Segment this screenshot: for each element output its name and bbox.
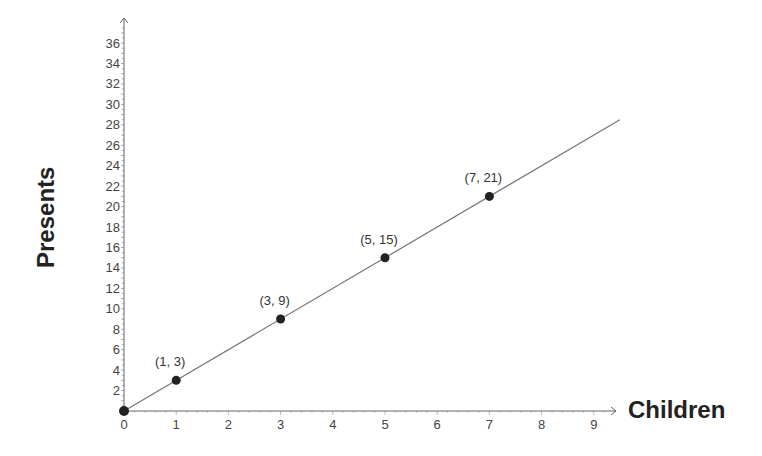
data-point-label: (3, 9) xyxy=(259,293,289,308)
y-tick-label: 10 xyxy=(106,301,120,316)
x-tick-label: 5 xyxy=(381,417,388,432)
trend-line xyxy=(124,120,620,411)
x-tick-label: 4 xyxy=(329,417,336,432)
y-tick-label: 24 xyxy=(106,158,120,173)
data-point xyxy=(172,376,181,385)
y-tick-label: 28 xyxy=(106,117,120,132)
data-point xyxy=(276,315,285,324)
y-tick-label: 32 xyxy=(106,76,120,91)
x-axis-ticks: 0123456789 xyxy=(120,411,614,432)
data-point-label: (5, 15) xyxy=(360,232,398,247)
data-point-label: (1, 3) xyxy=(155,354,185,369)
y-tick-label: 6 xyxy=(113,342,120,357)
y-tick-label: 8 xyxy=(113,322,120,337)
y-tick-label: 14 xyxy=(106,260,120,275)
y-axis-title: Presents xyxy=(32,167,59,268)
x-tick-label: 0 xyxy=(120,417,127,432)
x-tick-label: 9 xyxy=(590,417,597,432)
y-tick-label: 20 xyxy=(106,199,120,214)
data-points: (1, 3)(3, 9)(5, 15)(7, 21) xyxy=(119,170,502,416)
x-tick-label: 2 xyxy=(225,417,232,432)
y-tick-label: 30 xyxy=(106,97,120,112)
y-tick-label: 12 xyxy=(106,281,120,296)
x-tick-label: 7 xyxy=(486,417,493,432)
y-tick-label: 4 xyxy=(113,363,120,378)
y-tick-label: 36 xyxy=(106,36,120,51)
x-tick-label: 3 xyxy=(277,417,284,432)
data-point-label: (7, 21) xyxy=(465,170,503,185)
y-tick-label: 26 xyxy=(106,138,120,153)
data-point xyxy=(381,253,390,262)
data-point xyxy=(485,192,494,201)
y-axis-ticks: 24681012141618202224262830323436 xyxy=(106,28,124,406)
x-tick-label: 1 xyxy=(173,417,180,432)
x-tick-label: 6 xyxy=(434,417,441,432)
y-tick-label: 2 xyxy=(113,383,120,398)
y-tick-label: 22 xyxy=(106,179,120,194)
x-tick-label: 8 xyxy=(538,417,545,432)
y-tick-label: 34 xyxy=(106,56,120,71)
data-point xyxy=(119,406,129,416)
x-axis-title: Children xyxy=(628,396,725,423)
y-tick-label: 18 xyxy=(106,220,120,235)
y-tick-label: 16 xyxy=(106,240,120,255)
chart: 24681012141618202224262830323436 0123456… xyxy=(0,0,762,456)
